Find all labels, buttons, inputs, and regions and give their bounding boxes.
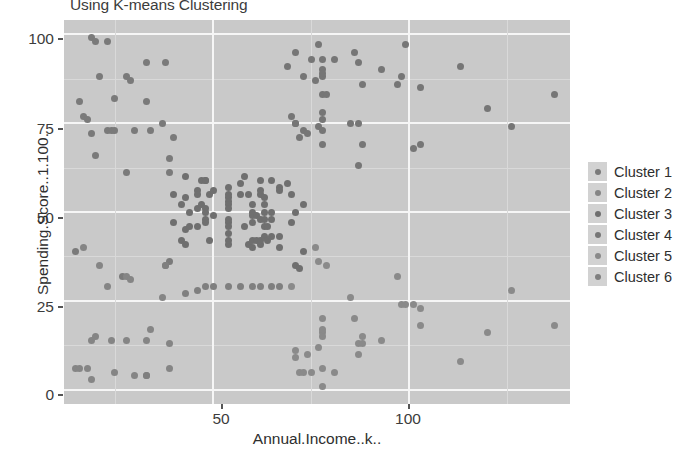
scatter-point — [123, 337, 130, 344]
legend-item-6[interactable]: Cluster 6 — [588, 266, 684, 287]
scatter-point — [284, 180, 291, 187]
scatter-point — [170, 219, 177, 226]
legend-key-swatch — [588, 246, 607, 265]
legend-item-3[interactable]: Cluster 3 — [588, 203, 684, 224]
scatter-point — [296, 265, 303, 272]
scatter-point — [210, 187, 217, 194]
scatter-point — [170, 134, 177, 141]
scatter-point — [123, 169, 130, 176]
scatter-point — [417, 84, 424, 91]
scatter-point — [276, 244, 283, 251]
scatter-point — [225, 230, 232, 237]
scatter-point — [292, 209, 299, 216]
scatter-point — [92, 152, 99, 159]
x-tick-mark-100 — [408, 404, 410, 409]
scatter-point — [225, 216, 232, 223]
scatter-point — [484, 329, 491, 336]
scatter-point — [166, 365, 173, 372]
scatter-point — [166, 169, 173, 176]
legend-dot-icon — [595, 190, 601, 196]
legend-item-2[interactable]: Cluster 2 — [588, 182, 684, 203]
scatter-point — [194, 223, 201, 230]
legend-item-4[interactable]: Cluster 4 — [588, 224, 684, 245]
scatter-point — [457, 63, 464, 70]
scatter-point — [127, 77, 134, 84]
y-tick-mark-0 — [58, 394, 63, 396]
scatter-point — [143, 337, 150, 344]
scatter-point — [355, 351, 362, 358]
scatter-point — [241, 173, 248, 180]
scatter-point — [202, 209, 209, 216]
scatter-point — [351, 315, 358, 322]
scatter-point — [261, 201, 268, 208]
chart-title: Using K-means Clustering — [70, 0, 248, 14]
scatter-point — [417, 141, 424, 148]
scatter-point — [143, 59, 150, 66]
scatter-point — [143, 372, 150, 379]
scatter-point — [264, 223, 271, 230]
scatter-point — [131, 372, 138, 379]
scatter-point — [111, 127, 118, 134]
legend-dot-icon — [595, 253, 601, 259]
scatter-point — [210, 212, 217, 219]
scatter-point — [315, 344, 322, 351]
scatter-point — [268, 209, 275, 216]
scatter-point — [166, 155, 173, 162]
scatter-point — [88, 130, 95, 137]
y-tick-mark-75 — [58, 128, 63, 130]
scatter-point — [319, 56, 326, 63]
scatter-point — [261, 209, 268, 216]
scatter-point — [80, 244, 87, 251]
scatter-point — [402, 301, 409, 308]
legend-item-1[interactable]: Cluster 1 — [588, 161, 684, 182]
scatter-point — [261, 216, 268, 223]
scatter-point — [417, 322, 424, 329]
legend-item-label: Cluster 1 — [614, 164, 672, 180]
scatter-point — [261, 194, 268, 201]
scatter-point — [378, 337, 385, 344]
scatter-point — [225, 191, 232, 198]
legend-item-5[interactable]: Cluster 5 — [588, 245, 684, 266]
scatter-point — [268, 216, 275, 223]
scatter-point — [225, 283, 232, 290]
scatter-point — [76, 98, 83, 105]
scatter-point — [186, 223, 193, 230]
scatter-point — [347, 120, 354, 127]
scatter-point — [206, 237, 213, 244]
x-tick-label-50: 50 — [212, 410, 229, 428]
scatter-point — [268, 177, 275, 184]
scatter-point — [182, 194, 189, 201]
scatter-point — [225, 223, 232, 230]
x-tick-text: 50 — [212, 410, 229, 427]
scatter-point — [288, 191, 295, 198]
gridline-minor-v — [507, 20, 508, 404]
scatter-point — [245, 191, 252, 198]
scatter-point — [296, 134, 303, 141]
scatter-point — [237, 283, 244, 290]
x-axis-label: Annual.Income..k.. — [64, 430, 570, 448]
scatter-point — [194, 191, 201, 198]
scatter-point — [319, 365, 326, 372]
scatter-point — [127, 276, 134, 283]
legend-key-swatch — [588, 162, 607, 181]
scatter-point — [457, 358, 464, 365]
scatter-point — [319, 315, 326, 322]
x-tick-text: 100 — [395, 410, 421, 427]
scatter-point — [249, 244, 256, 251]
scatter-point — [304, 351, 311, 358]
legend: Cluster 1Cluster 2Cluster 3Cluster 4Clus… — [588, 161, 684, 287]
y-tick-text: 0 — [45, 386, 54, 403]
scatter-point — [104, 38, 111, 45]
scatter-point — [355, 120, 362, 127]
legend-item-label: Cluster 2 — [614, 185, 672, 201]
scatter-point — [347, 294, 354, 301]
scatter-point — [284, 63, 291, 70]
scatter-point — [202, 283, 209, 290]
scatter-point — [351, 49, 358, 56]
scatter-point — [300, 248, 307, 255]
scatter-point — [417, 305, 424, 312]
scatter-point — [257, 177, 264, 184]
scatter-point — [249, 201, 256, 208]
scatter-point — [131, 127, 138, 134]
scatter-point — [508, 123, 515, 130]
